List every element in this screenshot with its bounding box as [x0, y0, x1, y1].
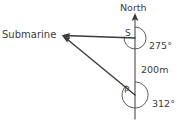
distance-label: 200m: [141, 64, 168, 75]
bearing-p-label: 312°: [152, 98, 175, 109]
bearing-s-label: 275°: [149, 40, 172, 51]
bearing-diagram-canvas: North Submarine S P 275° 200m 312°: [0, 0, 184, 122]
point-s-label: S: [125, 28, 131, 38]
submarine-label: Submarine: [2, 29, 56, 40]
bearing-diagram-figure: North Submarine S P 275° 200m 312°: [0, 0, 184, 122]
north-label: North: [120, 2, 147, 13]
point-p-label: P: [124, 85, 130, 95]
